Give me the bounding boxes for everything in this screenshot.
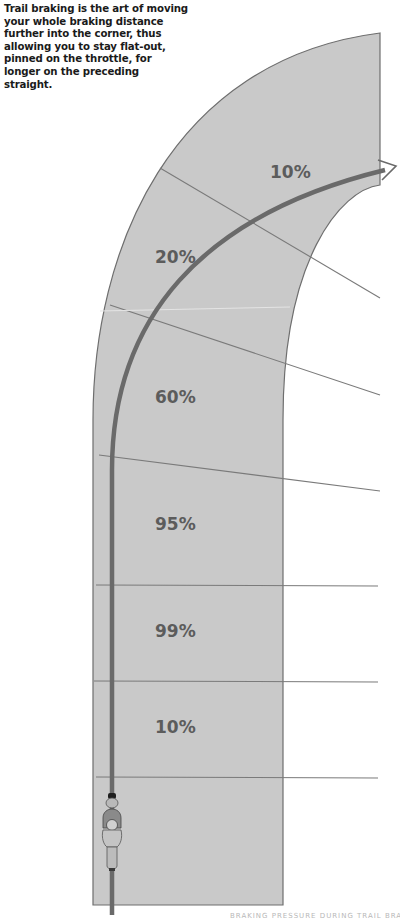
- footer-caption: BRAKING PRESSURE DURING TRAIL BRAKING: [230, 912, 400, 919]
- zone-label: 10%: [270, 162, 311, 182]
- road-surface: [93, 33, 380, 905]
- zone-label: 10%: [155, 717, 196, 737]
- zone-label: 99%: [155, 621, 196, 641]
- zone-label: 20%: [155, 247, 196, 267]
- zone-label: 95%: [155, 514, 196, 534]
- zone-label: 60%: [155, 387, 196, 407]
